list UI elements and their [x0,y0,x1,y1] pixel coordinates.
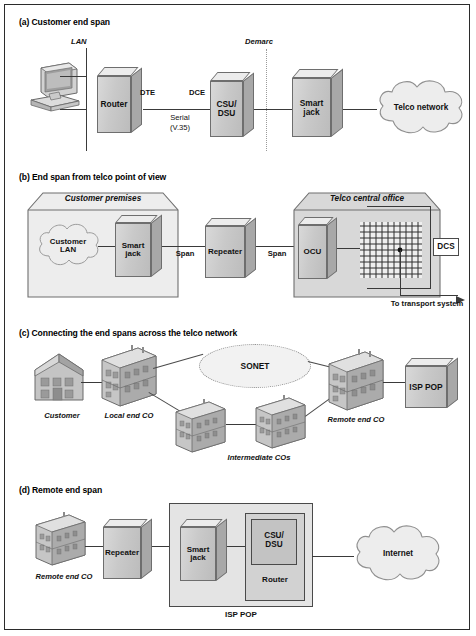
node-smart-jack-b: Smart jack [115,215,163,277]
repeater-label-d: Repeater [103,527,141,579]
demarc-label: Demarc [245,38,273,47]
isp-internet-link [312,556,354,557]
figure-frame: (a) Customer end span LAN Router [4,4,470,630]
demarc-divider [266,49,267,151]
node-csu-dsu: CSU/ DSU [210,72,255,137]
node-sonet-cloud: SONET [199,344,311,388]
node-remote-end-co-d [33,511,89,567]
intermediate-co-link [226,424,256,425]
panel-b: (b) End span from telco point of view Cu… [5,160,470,320]
span-right-label: Span [263,250,291,259]
lan-smartjack-link [98,246,116,247]
node-dcs-box: DCS [433,238,459,256]
panel-a-title: (a) Customer end span [19,17,110,27]
node-internet-cloud: Internet [350,520,446,588]
isp-pop-label-d: ISP POP [199,611,283,620]
node-csu-dsu-d: CSU/ DSU [251,519,297,565]
localco-sonet-link [153,354,203,369]
panel-b-title: (b) End span from telco point of view [19,172,166,182]
panel-d: (d) Remote end span R [5,475,470,630]
transport-drop-line [400,250,401,295]
node-router: Router [97,67,143,133]
node-telco-network-cloud: Telco network [373,75,469,141]
span-left-label: Span [171,250,199,259]
smart-jack-label-d: Smart jack [180,527,216,581]
panel-d-title: (d) Remote end span [19,485,102,495]
panel-c: (c) Connecting the end spans across the … [5,320,470,475]
span-left-link [162,246,208,247]
csu-smartjack-link [254,109,294,110]
sonet-label: SONET [241,361,270,371]
csu-dsu-label: CSU/ DSU [210,81,243,137]
workstation-lan-link [60,76,86,77]
panel-a: (a) Customer end span LAN Router [5,5,470,160]
node-isp-pop-c: ISP POP [405,358,459,408]
to-transport-label: To transport system [381,300,470,309]
remoteco-isp-link [383,382,407,383]
router-label-d: Router [246,576,304,584]
node-intermediate-co-2 [253,394,309,450]
node-local-end-co [98,344,160,408]
serial-sublabel: (V.35) [157,124,203,133]
internet-label: Internet [350,520,446,588]
dcs-bracket-bottom [367,288,431,289]
repeater-label-b: Repeater [205,226,245,278]
customer-label-c: Customer [31,412,93,421]
smartjack-telco-link [343,109,377,110]
smart-jack-label: Smart jack [292,78,331,137]
dcs-bracket-top [367,206,431,207]
customer-premises-label: Customer premises [27,194,179,203]
remote-end-co-label-c: Remote end CO [317,416,395,425]
workstation-lan-link-2 [60,109,86,110]
node-smart-jack: Smart jack [292,69,344,137]
dte-label: DTE [140,89,155,98]
router-label: Router [97,76,131,133]
remote-end-co-label-d: Remote end CO [25,573,103,582]
node-smart-jack-d: Smart jack [180,519,228,581]
node-remote-end-co-c [325,348,387,412]
dce-label: DCE [189,89,205,98]
csu-dsu-label-d: CSU/ DSU [252,532,296,549]
telco-network-label: Telco network [373,75,469,141]
transport-arrow-line [400,295,458,296]
lan-bus-line [86,48,87,151]
telco-central-office-label: Telco central office [293,194,441,203]
node-ocu: OCU [298,217,338,279]
serial-label: Serial [157,114,203,123]
node-repeater-b: Repeater [205,218,257,278]
local-end-co-label: Local end CO [93,412,165,421]
dcs-label: DCS [434,243,458,252]
ocu-dcs-link [337,248,361,249]
panel-c-title: (c) Connecting the end spans across the … [19,328,237,338]
node-customer-lan-cloud: Customer LAN [34,220,102,272]
intermediate-cos-label: Intermediate COs [189,454,329,463]
remoteco-repeater-link [85,546,105,547]
serial-link [143,109,212,110]
lan-label: LAN [71,38,87,47]
dcs-bracket-right [430,206,431,289]
node-intermediate-co-1 [173,398,229,454]
ocu-label: OCU [298,225,327,279]
isp-pop-label-c: ISP POP [405,366,447,408]
dcs-crossconnect-grid [360,222,422,278]
node-repeater-d: Repeater [103,519,153,579]
customer-lan-label: Customer LAN [34,220,102,272]
node-customer-house [31,348,93,406]
smart-jack-label-b: Smart jack [115,223,151,277]
